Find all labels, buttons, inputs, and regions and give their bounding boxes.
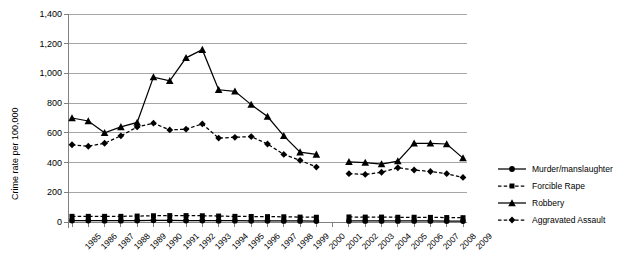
data-point-marker: [460, 174, 467, 181]
legend-key-diamond-icon: [497, 214, 527, 226]
data-point-marker: [216, 214, 221, 219]
legend-key-circle-icon: [497, 163, 527, 175]
data-point-marker: [314, 215, 319, 220]
data-point-marker: [70, 214, 75, 219]
data-point-marker: [69, 141, 76, 148]
data-point-marker: [232, 134, 239, 141]
data-point-marker: [102, 214, 107, 219]
data-point-marker: [411, 167, 418, 174]
data-point-marker: [427, 168, 434, 175]
data-point-marker: [166, 126, 173, 133]
legend-key-triangle-icon: [497, 197, 527, 209]
legend-key-square-icon: [497, 180, 527, 192]
data-point-marker: [461, 215, 466, 220]
data-point-marker: [394, 164, 401, 171]
data-point-marker: [379, 215, 384, 220]
legend-item-label: Forcible Rape: [532, 181, 585, 191]
data-point-marker: [151, 213, 156, 218]
data-point-marker: [200, 213, 205, 218]
series-forcible-rape: [70, 213, 466, 220]
chart-legend: Murder/manslaughterForcible RapeRobberyA…: [497, 160, 613, 228]
data-point-marker: [264, 141, 271, 148]
data-point-marker: [378, 169, 385, 176]
data-point-marker: [313, 164, 320, 171]
data-point-marker: [150, 73, 158, 80]
data-point-marker: [68, 114, 76, 121]
data-point-marker: [167, 213, 172, 218]
data-point-marker: [117, 132, 124, 139]
data-point-marker: [199, 218, 205, 224]
data-point-marker: [428, 215, 433, 220]
legend-item-label: Robbery: [532, 198, 564, 208]
data-point-marker: [443, 170, 450, 177]
legend-item-label: Murder/manslaughter: [532, 164, 613, 174]
data-point-marker: [298, 215, 303, 220]
legend-item-aggravated-assault[interactable]: Aggravated Assault: [497, 211, 613, 228]
data-point-marker: [101, 140, 108, 147]
data-point-marker: [363, 215, 368, 220]
data-point-marker: [265, 214, 270, 219]
legend-item-forcible-rape[interactable]: Forcible Rape: [497, 177, 613, 194]
data-point-marker: [135, 214, 140, 219]
data-point-marker: [280, 151, 287, 158]
data-point-marker: [395, 215, 400, 220]
series-line: [72, 123, 316, 167]
data-point-marker: [151, 217, 157, 223]
data-point-marker: [167, 217, 173, 223]
data-point-marker: [183, 218, 189, 224]
series-line: [72, 216, 316, 218]
series-robbery: [68, 46, 467, 167]
series-line: [72, 220, 316, 221]
data-point-marker: [85, 143, 92, 150]
data-point-marker: [510, 183, 515, 188]
legend-item-label: Aggravated Assault: [532, 215, 605, 225]
data-point-marker: [412, 215, 417, 220]
legend-item-robbery[interactable]: Robbery: [497, 194, 613, 211]
series-aggravated-assault: [69, 120, 467, 181]
data-point-marker: [183, 126, 190, 133]
data-point-marker: [118, 214, 123, 219]
data-point-marker: [86, 214, 91, 219]
data-point-marker: [199, 121, 206, 128]
data-point-marker: [346, 214, 351, 219]
data-point-marker: [199, 46, 207, 53]
data-point-marker: [249, 214, 254, 219]
legend-item-murder-manslaughter[interactable]: Murder/manslaughter: [497, 160, 613, 177]
data-point-marker: [264, 113, 272, 120]
data-point-marker: [509, 166, 515, 172]
data-point-marker: [346, 170, 353, 177]
crime-rate-line-chart: Crime rate per 100,000 02004006008001,00…: [0, 0, 626, 256]
series-line: [72, 50, 316, 155]
data-point-marker: [184, 213, 189, 218]
data-point-marker: [444, 215, 449, 220]
data-point-marker: [216, 218, 222, 224]
data-point-marker: [509, 216, 516, 223]
data-point-marker: [150, 120, 157, 127]
data-point-marker: [281, 214, 286, 219]
data-point-marker: [248, 133, 255, 140]
data-point-marker: [182, 54, 190, 61]
data-point-marker: [362, 171, 369, 178]
data-point-marker: [232, 214, 237, 219]
